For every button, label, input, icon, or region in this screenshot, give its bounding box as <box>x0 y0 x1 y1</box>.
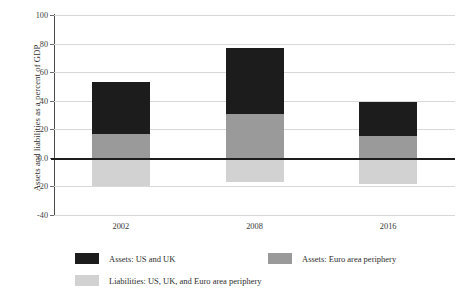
y-axis-tick-label: 0.0 <box>38 153 48 162</box>
bar-segment[interactable] <box>226 158 284 182</box>
bar-segment[interactable] <box>92 158 150 187</box>
bar-segment[interactable] <box>359 102 417 136</box>
legend-item[interactable]: Assets: US and UK <box>75 253 175 264</box>
bar-segment[interactable] <box>359 158 417 184</box>
y-axis-tick <box>50 186 54 187</box>
bar-segment[interactable] <box>359 136 417 157</box>
y-axis-tick <box>50 101 54 102</box>
y-axis-tick <box>50 72 54 73</box>
bar-segment[interactable] <box>92 82 150 133</box>
x-axis-tick-label: 2002 <box>112 222 129 231</box>
y-axis-tick-label: 100 <box>36 11 48 20</box>
bar-segment[interactable] <box>226 48 284 114</box>
chart-legend: Assets: US and UKAssets: Euro area perip… <box>0 248 471 298</box>
legend-label: Liabilities: US, UK, and Euro area perip… <box>109 276 261 286</box>
legend-item[interactable]: Liabilities: US, UK, and Euro area perip… <box>75 275 261 286</box>
y-axis-tick-label: 60 <box>40 68 48 77</box>
y-axis-tick <box>50 15 54 16</box>
bar-group[interactable] <box>359 15 417 215</box>
y-axis-tick <box>50 215 54 216</box>
legend-item[interactable]: Assets: Euro area periphery <box>268 253 396 264</box>
gridline <box>54 215 455 216</box>
y-axis-tick-label: -20 <box>37 182 48 191</box>
y-axis-tick-label: 20 <box>40 125 48 134</box>
stacked-bar-chart: Assets and liabilities as a percent of G… <box>0 0 471 304</box>
legend-swatch-icon <box>75 253 99 264</box>
bar-segment[interactable] <box>226 114 284 158</box>
bar-group[interactable] <box>226 15 284 215</box>
legend-swatch-icon <box>268 253 292 264</box>
bar-segment[interactable] <box>92 134 150 158</box>
legend-label: Assets: Euro area periphery <box>302 254 396 264</box>
y-axis-tick <box>50 44 54 45</box>
x-axis-tick-label: 2016 <box>380 222 397 231</box>
y-axis-tick-label: 80 <box>40 39 48 48</box>
legend-swatch-icon <box>75 275 99 286</box>
y-axis-tick-label: -40 <box>37 211 48 220</box>
x-axis-tick-label: 2008 <box>246 222 263 231</box>
plot-area: 100806040200.0-20-40 <box>54 15 455 215</box>
y-axis-tick-label: 40 <box>40 96 48 105</box>
zero-baseline <box>51 158 455 160</box>
y-axis-tick <box>50 129 54 130</box>
legend-label: Assets: US and UK <box>109 254 175 264</box>
bar-group[interactable] <box>92 15 150 215</box>
